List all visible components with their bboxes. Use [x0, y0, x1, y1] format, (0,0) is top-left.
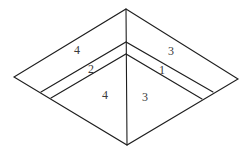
- label-top-right: 3: [168, 44, 174, 58]
- label-band-right: 1: [159, 63, 165, 77]
- label-top-left: 4: [74, 43, 80, 57]
- label-bottom-left: 4: [102, 88, 108, 102]
- label-band-left: 2: [88, 62, 94, 76]
- vertical-divider: [126, 9, 127, 145]
- rhombus-diagram: 4 3 2 1 4 3: [0, 0, 242, 153]
- label-bottom-right: 3: [142, 90, 148, 104]
